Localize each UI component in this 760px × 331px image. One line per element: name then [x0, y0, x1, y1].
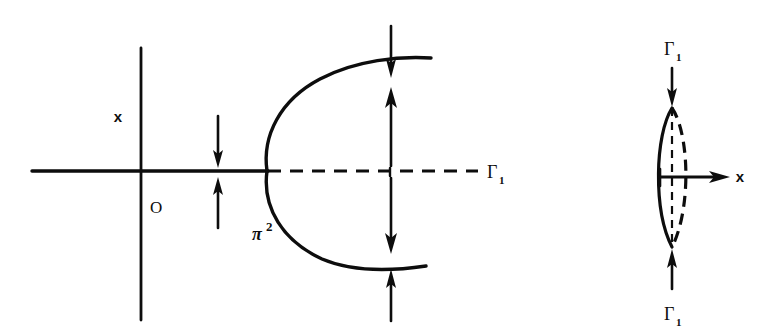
arrow-top-inward	[667, 68, 677, 107]
arrow-inner-up-left	[213, 177, 223, 228]
parabola-pi-squared-label: π 2	[252, 219, 273, 244]
gamma-symbol: Γ	[487, 162, 497, 182]
right-panel: x Γ 1 Γ 1	[658, 39, 744, 328]
right-x-arrow	[659, 171, 730, 183]
arrow-inner-down-left	[213, 116, 223, 168]
arrow-outer-down-top	[386, 26, 396, 78]
origin-label: O	[150, 198, 162, 217]
gamma-subscript-bottom: 1	[676, 316, 682, 328]
left-axis-x-label: x	[114, 108, 123, 125]
gamma-symbol-top: Γ	[664, 39, 674, 59]
gamma-symbol-bottom: Γ	[664, 304, 674, 324]
gamma-subscript-top: 1	[676, 51, 682, 63]
figure-canvas: x O π 2 Γ 1	[0, 0, 760, 331]
arrow-outer-up-bot	[386, 269, 396, 321]
arrow-inner-down-bot	[385, 178, 397, 254]
pi-exponent: 2	[266, 219, 273, 234]
parabola-upper-arm	[266, 58, 431, 171]
right-axis-x-label: x	[736, 168, 745, 185]
figure-root: x O π 2 Γ 1	[0, 0, 760, 331]
parabola-lower-arm	[266, 171, 426, 270]
right-gamma1-top-label: Γ 1	[664, 39, 682, 63]
pi-symbol: π	[252, 224, 263, 244]
left-gamma1-label: Γ 1	[487, 162, 505, 186]
gamma-subscript: 1	[499, 174, 505, 186]
arrow-bottom-inward	[667, 249, 677, 289]
right-gamma1-bottom-label: Γ 1	[664, 304, 682, 328]
arrow-inner-up-top	[385, 87, 397, 166]
left-panel: x O π 2 Γ 1	[32, 26, 505, 321]
